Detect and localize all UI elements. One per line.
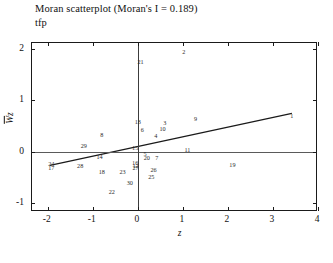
x-tick-mark-top [48,42,49,46]
vertical-reference-line [138,43,139,210]
x-tick-mark [273,207,274,211]
y-tick-mark-right [313,100,317,101]
x-tick-label: 2 [225,214,230,224]
plot-inner: 1234567891011121314151617181920212223242… [32,43,316,210]
y-tick-label: 1 [19,94,24,104]
x-tick-mark-top [228,42,229,46]
point-label: 11 [184,146,190,152]
x-tick-label: 0 [134,214,139,224]
y-tick-mark-right [313,152,317,153]
y-tick-label: -1 [16,197,24,207]
plot-lines [32,43,316,210]
x-tick-label: -1 [88,214,96,224]
point-label: 4 [154,133,157,139]
plot-area: 1234567891011121314151617181920212223242… [31,42,317,211]
x-tick-mark [318,207,319,211]
point-label: 24 [48,161,54,167]
chart-title: Moran scatterplot (Moran's I = 0.189) [35,3,198,14]
chart-subtitle: tfp [35,17,47,28]
x-tick-mark-top [93,42,94,46]
point-label: 21 [137,59,143,65]
point-label: 22 [109,188,115,194]
point-label: 10 [160,126,166,132]
x-tick-mark [48,207,49,211]
moran-scatterplot-figure: Moran scatterplot (Moran's I = 0.189) tf… [0,0,333,263]
x-tick-mark [183,207,184,211]
x-tick-mark-top [318,42,319,46]
y-tick-mark [31,203,35,204]
point-label: 30 [127,180,133,186]
x-tick-label: 4 [315,214,320,224]
point-label: 14 [96,154,102,160]
x-tick-mark-top [138,42,139,46]
point-label: 13 [135,119,141,125]
x-tick-mark-top [273,42,274,46]
point-label: 9 [194,116,197,122]
point-label: 20 [144,155,150,161]
point-label: 25 [148,174,154,180]
x-tick-mark-top [183,42,184,46]
y-tick-label: 0 [19,146,24,156]
x-tick-mark [228,207,229,211]
point-label: 18 [99,169,105,175]
point-label: 15 [132,145,138,151]
point-label: 19 [229,162,235,168]
x-tick-label: 1 [180,214,185,224]
point-label: 27 [132,165,138,171]
point-label: 7 [155,155,158,161]
point-label: 26 [151,167,157,173]
x-tick-label: 3 [270,214,275,224]
y-tick-label: 2 [19,43,24,53]
x-tick-mark [93,207,94,211]
point-label: 23 [119,169,125,175]
x-tick-label: -2 [43,214,51,224]
point-label: 28 [77,163,83,169]
y-tick-mark [31,49,35,50]
horizontal-reference-line [32,152,316,153]
point-label: 8 [100,132,103,138]
point-label: 1 [290,113,293,119]
point-label: 6 [141,127,144,133]
point-label: 29 [81,143,87,149]
y-tick-mark-right [313,203,317,204]
y-tick-mark [31,152,35,153]
x-tick-mark [138,207,139,211]
regression-line [50,113,292,165]
point-label: 2 [182,49,185,55]
y-tick-mark-right [313,49,317,50]
x-axis-title: z [178,228,182,238]
y-tick-mark [31,100,35,101]
y-axis-title: Wz [5,112,15,124]
